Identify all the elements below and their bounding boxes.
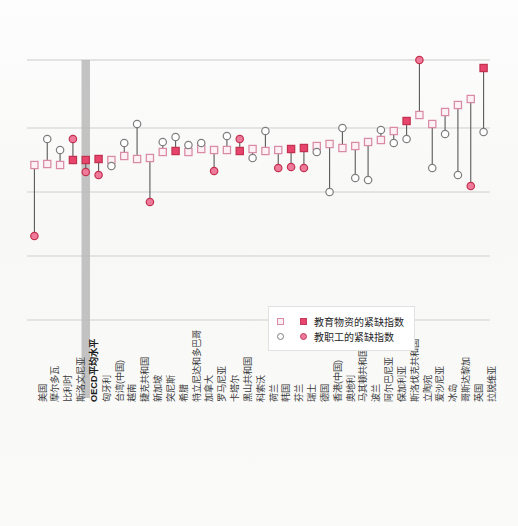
marker-staff: [133, 120, 140, 127]
marker-staff: [275, 164, 282, 171]
chart-legend: 教育物资的紧缺指数 教职工的紧缺指数: [268, 306, 415, 351]
marker-staff: [403, 135, 410, 142]
marker-materials: [300, 144, 307, 151]
circle-open-icon: [277, 333, 284, 340]
marker-staff: [262, 127, 269, 134]
marker-staff: [146, 198, 153, 205]
marker-staff: [95, 171, 102, 178]
connector-lines-group: [34, 60, 483, 236]
marker-staff: [326, 188, 333, 195]
marker-staff: [172, 133, 179, 140]
marker-materials: [95, 155, 102, 162]
marker-materials: [82, 156, 89, 163]
marker-staff: [31, 232, 38, 239]
page-background: 美国摩尔多瓦比利时斯洛文尼亚OECD平均水平匈牙利台湾(中国)越南捷克共和国新加…: [0, 0, 518, 526]
marker-staff: [223, 132, 230, 139]
marker-materials: [326, 140, 333, 147]
legend-row-staff: 教职工的紧缺指数: [277, 329, 404, 343]
marker-materials: [377, 136, 384, 143]
marker-staff: [364, 176, 371, 183]
marker-staff: [287, 163, 294, 170]
marker-materials: [121, 152, 128, 159]
data-markers-group: [31, 56, 488, 239]
marker-materials: [390, 127, 397, 134]
marker-materials: [223, 146, 230, 153]
marker-staff: [467, 182, 474, 189]
marker-staff: [69, 135, 76, 142]
marker-materials: [441, 108, 448, 115]
marker-materials: [172, 147, 179, 154]
gridlines-group: [27, 60, 490, 320]
marker-staff: [480, 128, 487, 135]
marker-materials: [56, 161, 63, 168]
circle-filled-icon: [300, 333, 307, 340]
marker-materials: [364, 138, 371, 145]
marker-materials: [31, 161, 38, 168]
marker-staff: [121, 139, 128, 146]
marker-staff: [210, 167, 217, 174]
marker-staff: [313, 148, 320, 155]
marker-staff: [56, 146, 63, 153]
marker-materials: [236, 147, 243, 154]
marker-materials: [403, 117, 410, 124]
marker-staff: [159, 138, 166, 145]
legend-label-materials: 教育物资的紧缺指数: [314, 314, 404, 329]
marker-materials: [287, 145, 294, 152]
marker-staff: [185, 141, 192, 148]
marker-staff: [390, 139, 397, 146]
marker-materials: [249, 145, 256, 152]
square-open-icon: [277, 318, 284, 325]
marker-materials: [133, 155, 140, 162]
marker-staff: [236, 135, 243, 142]
marker-materials: [69, 156, 76, 163]
legend-symbols-circle: [277, 333, 307, 340]
marker-materials: [454, 101, 461, 108]
marker-materials: [480, 64, 487, 71]
square-filled-icon: [300, 318, 307, 325]
marker-materials: [210, 146, 217, 153]
marker-staff: [300, 164, 307, 171]
marker-materials: [44, 160, 51, 167]
marker-staff: [82, 168, 89, 175]
marker-staff: [352, 174, 359, 181]
marker-materials: [185, 148, 192, 155]
marker-staff: [454, 171, 461, 178]
marker-materials: [339, 144, 346, 151]
marker-staff: [441, 130, 448, 137]
marker-materials: [146, 154, 153, 161]
oecd-highlight-band: [82, 60, 91, 398]
marker-staff: [377, 126, 384, 133]
marker-materials: [416, 111, 423, 118]
legend-symbols-square: [277, 318, 307, 325]
highlight-band-rect: [82, 60, 91, 398]
marker-staff: [339, 124, 346, 131]
marker-staff: [429, 164, 436, 171]
marker-staff: [44, 135, 51, 142]
slope-chart-svg: [0, 0, 518, 526]
marker-staff: [249, 154, 256, 161]
marker-staff: [416, 56, 423, 63]
marker-materials: [352, 142, 359, 149]
marker-materials: [159, 148, 166, 155]
marker-materials: [262, 147, 269, 154]
marker-materials: [429, 120, 436, 127]
legend-row-materials: 教育物资的紧缺指数: [277, 314, 404, 328]
marker-materials: [275, 146, 282, 153]
marker-staff: [108, 162, 115, 169]
chart-container: [0, 0, 518, 526]
marker-staff: [198, 139, 205, 146]
marker-materials: [467, 95, 474, 102]
legend-label-staff: 教职工的紧缺指数: [314, 329, 394, 344]
